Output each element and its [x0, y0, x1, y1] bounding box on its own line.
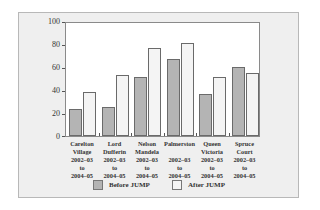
bar-before — [134, 77, 147, 136]
bar-before — [69, 109, 82, 136]
bar-after — [83, 92, 96, 136]
bar-after — [246, 73, 259, 136]
x-tick-label: LordDufferin2002–03to2004–05 — [98, 140, 132, 180]
bar-after — [181, 43, 194, 136]
legend-swatch-after — [172, 180, 182, 190]
bar-before — [102, 107, 115, 136]
x-tick-label: SpruceCourt2002–03to2004–05 — [228, 140, 262, 180]
x-tickmark — [164, 133, 165, 136]
legend-item-before: Before JUMP — [93, 180, 150, 190]
y-tick-100: 100 — [40, 18, 60, 26]
y-tick-0: 0 — [40, 133, 60, 141]
y-tick-20: 20 — [40, 110, 60, 118]
y-tick-80: 80 — [40, 41, 60, 49]
legend-label-after: After JUMP — [188, 181, 225, 189]
x-tickmark — [196, 133, 197, 136]
plot-area — [65, 22, 260, 137]
x-tick-label: Palmerston 2002–03to2004–05 — [163, 140, 197, 180]
bar-before — [232, 67, 245, 136]
y-tick-40: 40 — [40, 87, 60, 95]
bar-after — [213, 77, 226, 136]
x-tickmark — [99, 133, 100, 136]
legend-item-after: After JUMP — [172, 180, 225, 190]
x-tickmark — [229, 133, 230, 136]
bar-after — [116, 75, 129, 136]
bar-after — [148, 48, 161, 136]
x-tick-label: CareltonVillage2002–03to2004–05 — [65, 140, 99, 180]
y-tick-60: 60 — [40, 64, 60, 72]
legend-label-before: Before JUMP — [109, 181, 150, 189]
x-tick-label: QueenVictoria2002–03to2004–05 — [195, 140, 229, 180]
x-tickmark — [131, 133, 132, 136]
x-tick-label: NelsonMandela2002–03to2004–05 — [130, 140, 164, 180]
bar-before — [167, 59, 180, 136]
bar-before — [199, 94, 212, 136]
legend-swatch-before — [93, 180, 103, 190]
